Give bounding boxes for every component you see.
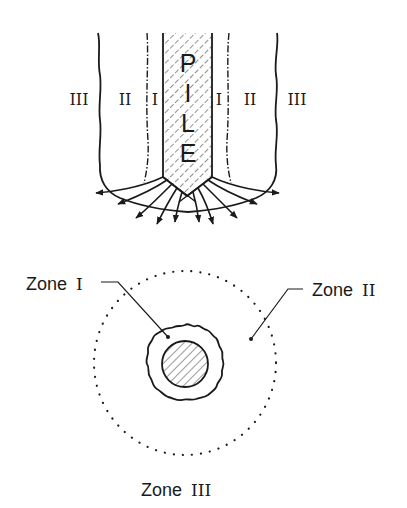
pile-zones-diagram: P I L E III II I I II III	[0, 0, 407, 508]
pile-letter-i: I	[185, 79, 192, 107]
pile-letter-p: P	[180, 49, 197, 77]
zone-label-left-1: I	[152, 90, 158, 109]
zone-2-label: Zone II	[312, 280, 375, 300]
zone-1-label: Zone I	[26, 274, 83, 294]
zone-1-boundary-right	[227, 33, 231, 183]
pile-letter-l: L	[181, 109, 195, 137]
zone-label-right-2: II	[244, 90, 257, 109]
zone-3-label: Zone III	[141, 480, 211, 500]
zone-2-leader	[249, 289, 303, 341]
zone-label-left-2: II	[119, 90, 132, 109]
stress-lines-right	[193, 177, 279, 224]
zone-1-leader	[101, 282, 170, 339]
zone-label-right-1: I	[216, 90, 222, 109]
pile-letter-e: E	[180, 139, 197, 167]
pile-cross-section	[162, 341, 208, 387]
elevation-view: P I L E III II I I II III	[70, 33, 307, 224]
stress-lines-left	[96, 177, 182, 224]
plan-view: Zone I Zone II Zone III	[26, 271, 375, 500]
zone-1-boundary-left	[144, 33, 148, 183]
zone-label-right-3: III	[288, 90, 307, 109]
zone-label-left-3: III	[70, 90, 89, 109]
